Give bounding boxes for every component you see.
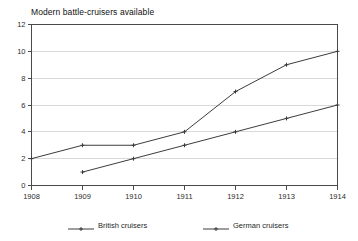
y-axis-tick-marks [28, 25, 32, 186]
y-axis-tick-label: 6 [4, 101, 26, 110]
y-axis-tick-label: 2 [4, 154, 26, 163]
data-point-marker [336, 49, 340, 53]
data-point-marker [336, 103, 340, 107]
x-axis-tick-label: 1909 [66, 192, 100, 201]
plot-area [0, 0, 358, 241]
data-point-marker [132, 143, 136, 147]
chart-legend: British cruisersGerman cruisers [0, 219, 358, 233]
y-axis-tick-label: 0 [4, 181, 26, 190]
data-series-layer [30, 49, 340, 174]
data-point-marker [234, 130, 238, 134]
y-axis-tick-label: 12 [4, 20, 26, 29]
data-point-marker [285, 63, 289, 67]
legend-marker-icon [203, 220, 229, 230]
gridlines [32, 51, 338, 158]
data-point-marker [30, 157, 34, 161]
y-axis-tick-label: 10 [4, 47, 26, 56]
data-point-marker [285, 116, 289, 120]
x-axis-tick-label: 1908 [15, 192, 49, 201]
legend-item-label: German cruisers [233, 221, 288, 230]
y-axis-tick-label: 8 [4, 74, 26, 83]
data-point-marker [183, 143, 187, 147]
x-axis-tick-label: 1910 [117, 192, 151, 201]
x-axis-tick-label: 1912 [219, 192, 253, 201]
data-point-marker [81, 143, 85, 147]
legend-item[interactable]: German cruisers [203, 219, 288, 231]
x-axis-tick-label: 1914 [321, 192, 355, 201]
data-point-marker [81, 170, 85, 174]
data-point-marker [132, 157, 136, 161]
x-axis-tick-label: 1913 [270, 192, 304, 201]
series-2 [81, 103, 340, 174]
y-axis-tick-label: 4 [4, 127, 26, 136]
legend-marker-icon [68, 220, 94, 230]
x-axis-tick-marks [32, 186, 338, 190]
legend-item[interactable]: British cruisers [68, 219, 147, 231]
chart-container: Modern battle-cruisers available 0246810… [0, 0, 358, 241]
legend-item-label: British cruisers [98, 221, 147, 230]
x-axis-tick-label: 1911 [168, 192, 202, 201]
